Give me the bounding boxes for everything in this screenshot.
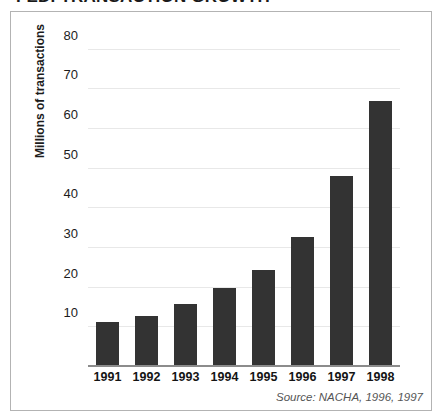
bar-1992[interactable] — [135, 316, 158, 365]
y-tick-label: 10 — [64, 305, 78, 320]
y-tick-label: 30 — [64, 226, 78, 241]
bar-1997[interactable] — [330, 176, 353, 365]
bar-slot — [322, 30, 361, 365]
y-tick-label: 40 — [64, 186, 78, 201]
x-tick-label: 1993 — [166, 370, 205, 384]
x-tick-label: 1994 — [205, 370, 244, 384]
bar-slot — [166, 30, 205, 365]
plot-inner: 1020304050607080 — [88, 30, 400, 367]
y-axis-label: Millions of transactions — [33, 0, 47, 186]
bar-slot — [244, 30, 283, 365]
plot-area: 1020304050607080 — [88, 30, 400, 367]
bar-1991[interactable] — [96, 322, 119, 365]
bar-1994[interactable] — [213, 288, 236, 365]
x-tick-label: 1995 — [244, 370, 283, 384]
bar-slot — [127, 30, 166, 365]
x-axis-ticks: 19911992199319941995199619971998 — [88, 370, 400, 384]
bar-series — [88, 30, 400, 365]
bar-1996[interactable] — [291, 237, 314, 365]
x-tick-label: 1992 — [127, 370, 166, 384]
x-axis-line — [88, 365, 400, 367]
source-note: Source: NACHA, 1996, 1997 — [276, 391, 423, 403]
y-tick-label: 80 — [64, 27, 78, 42]
x-tick-label: 1998 — [361, 370, 400, 384]
chart-title: FEDI TRANSACTION GROWTH — [16, 0, 270, 7]
bar-1993[interactable] — [174, 304, 197, 365]
x-tick-label: 1996 — [283, 370, 322, 384]
bar-slot — [88, 30, 127, 365]
x-tick-label: 1997 — [322, 370, 361, 384]
y-tick-label: 50 — [64, 146, 78, 161]
bar-1995[interactable] — [252, 270, 275, 365]
y-tick-label: 70 — [64, 67, 78, 82]
y-tick-label: 20 — [64, 265, 78, 280]
bar-slot — [205, 30, 244, 365]
x-tick-label: 1991 — [88, 370, 127, 384]
bar-1998[interactable] — [369, 101, 392, 365]
y-tick-label: 60 — [64, 107, 78, 122]
bar-slot — [361, 30, 400, 365]
chart-figure: FEDI TRANSACTION GROWTH Millions of tran… — [0, 0, 445, 419]
bar-slot — [283, 30, 322, 365]
